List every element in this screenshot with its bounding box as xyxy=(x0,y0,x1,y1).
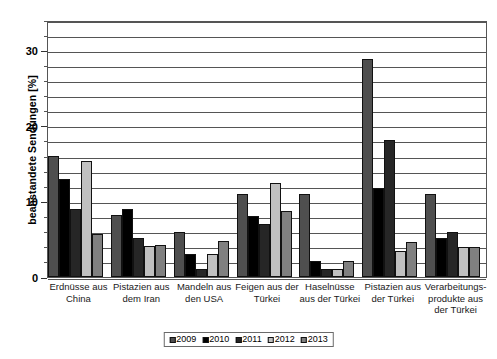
legend-swatch-icon xyxy=(202,337,208,343)
y-axis-tick-label: 0 xyxy=(32,272,38,284)
bar-2009 xyxy=(362,59,373,277)
bar-2009 xyxy=(425,194,436,277)
bar-group xyxy=(111,22,166,277)
bar-2009 xyxy=(237,194,248,277)
y-axis-tick-label: 20 xyxy=(26,121,38,133)
legend-item-2009[interactable]: 2009 xyxy=(169,335,196,344)
bar-2011 xyxy=(321,269,332,277)
bar-2009 xyxy=(48,156,59,277)
x-axis-label-line: produkte aus xyxy=(419,293,492,305)
legend-item-2010[interactable]: 2010 xyxy=(202,335,229,344)
bar-2010 xyxy=(436,238,447,277)
bar-2011 xyxy=(384,140,395,277)
gridline xyxy=(48,279,486,280)
legend-swatch-icon xyxy=(301,337,307,343)
bar-group xyxy=(174,22,229,277)
bar-2010 xyxy=(185,254,196,277)
bar-2013 xyxy=(406,242,417,277)
legend-swatch-icon xyxy=(235,337,241,343)
bar-2010 xyxy=(310,261,321,277)
bar-2013 xyxy=(343,261,354,277)
bar-2013 xyxy=(155,245,166,277)
legend-label: 2011 xyxy=(242,335,261,344)
legend: 20092010201120122013 xyxy=(163,332,333,347)
y-axis-tick-label: 10 xyxy=(26,196,38,208)
bar-2011 xyxy=(447,232,458,277)
bar-2011 xyxy=(70,209,81,277)
bar-group xyxy=(237,22,292,277)
y-axis-tick-label: 30 xyxy=(26,45,38,57)
bar-2009 xyxy=(299,194,310,277)
bar-2009 xyxy=(174,232,185,277)
x-axis-labels: Erdnüsse ausChinaPistazien ausdem IranMa… xyxy=(47,281,487,329)
bar-2013 xyxy=(469,247,480,277)
legend-label: 2010 xyxy=(209,335,229,344)
bar-2012 xyxy=(144,246,155,277)
legend-item-2012[interactable]: 2012 xyxy=(268,335,295,344)
legend-item-2013[interactable]: 2013 xyxy=(301,335,328,344)
y-axis-ticks: 0102030 xyxy=(0,21,47,278)
legend-item-2011[interactable]: 2011 xyxy=(235,335,261,344)
bar-2013 xyxy=(92,234,103,277)
bar-2011 xyxy=(196,269,207,277)
legend-label: 2012 xyxy=(275,335,295,344)
plot-area xyxy=(47,21,487,278)
bar-chart: beanstandete Sendungen [%] 0102030 Erdnü… xyxy=(0,0,497,359)
bar-2012 xyxy=(332,269,343,277)
bar-group xyxy=(48,22,103,277)
legend-swatch-icon xyxy=(169,337,175,343)
bar-2010 xyxy=(59,179,70,277)
legend-label: 2013 xyxy=(308,335,328,344)
legend-label: 2009 xyxy=(176,335,196,344)
bar-2011 xyxy=(259,224,270,277)
bar-2013 xyxy=(218,241,229,277)
bar-group xyxy=(362,22,417,277)
bar-2012 xyxy=(458,247,469,277)
x-axis-label-line: der Türkei xyxy=(419,304,492,316)
legend-swatch-icon xyxy=(268,337,274,343)
bar-2012 xyxy=(270,183,281,277)
bar-2010 xyxy=(373,188,384,277)
bar-2010 xyxy=(122,209,133,277)
bar-2009 xyxy=(111,215,122,277)
x-axis-label-line: Verarbeitungs- xyxy=(419,281,492,293)
bar-2011 xyxy=(133,238,144,277)
x-axis-label: Verarbeitungs-produkte ausder Türkei xyxy=(419,281,492,316)
bar-2012 xyxy=(395,251,406,277)
bar-group xyxy=(425,22,480,277)
bar-group xyxy=(299,22,354,277)
bar-2012 xyxy=(81,161,92,277)
bar-2010 xyxy=(248,216,259,277)
bar-2012 xyxy=(207,254,218,277)
bar-2013 xyxy=(281,211,292,277)
bars-layer xyxy=(48,22,486,277)
